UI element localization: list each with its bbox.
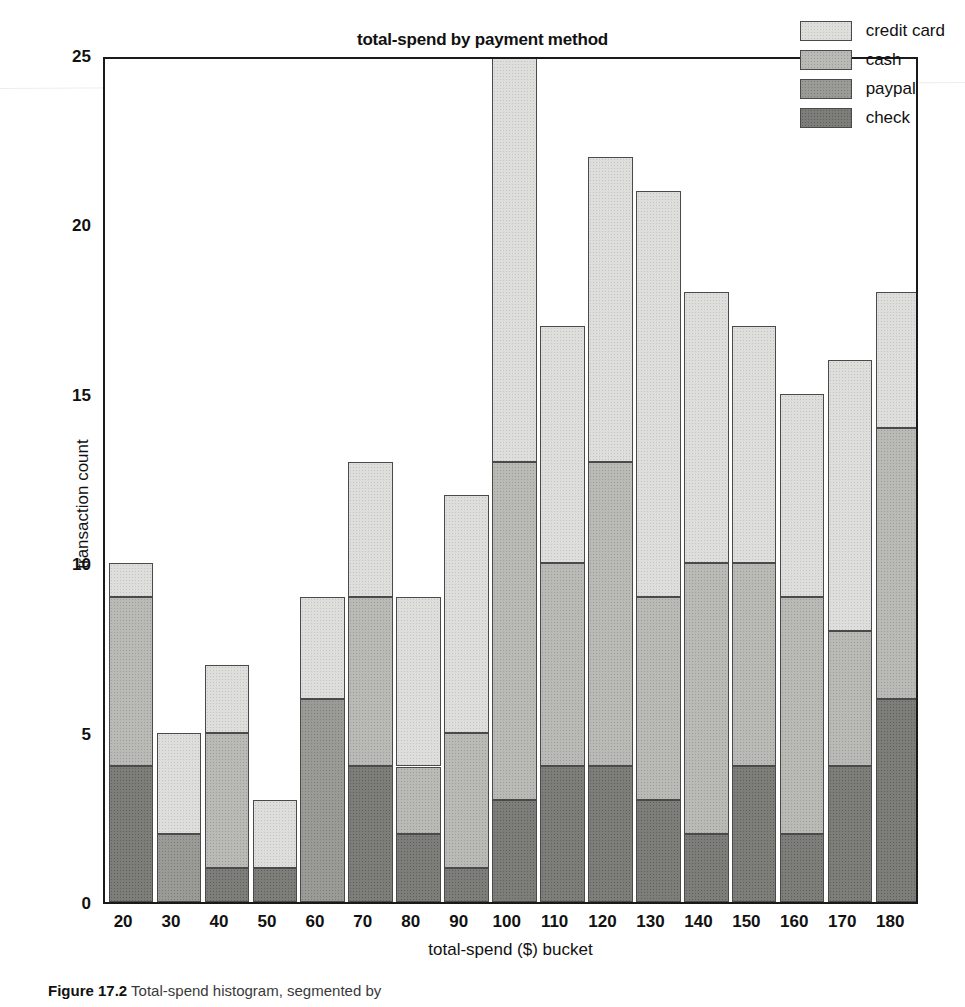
bar-stack[interactable] <box>109 563 154 902</box>
bar-segment-credit-card[interactable] <box>444 495 489 732</box>
legend-item[interactable]: cash <box>800 45 945 74</box>
legend-label: credit card <box>866 21 945 41</box>
bar-segment-cash[interactable] <box>492 462 537 801</box>
bar-segment-cash[interactable] <box>205 733 250 869</box>
bar-segment-check[interactable] <box>253 868 298 902</box>
figure-container: total-spend by payment method transactio… <box>0 0 965 1007</box>
bar-stack[interactable] <box>732 326 777 902</box>
bar-stack[interactable] <box>444 495 489 902</box>
bar-segment-cash[interactable] <box>684 563 729 834</box>
y-tick-label: 15 <box>31 386 91 406</box>
bar-segment-check[interactable] <box>348 766 393 902</box>
bar-segment-cash[interactable] <box>396 767 441 835</box>
bar-segment-check[interactable] <box>205 868 250 902</box>
bar-segment-cash[interactable] <box>732 563 777 766</box>
bar-segment-check[interactable] <box>780 834 825 902</box>
bar-segment-cash[interactable] <box>444 733 489 869</box>
bar-segment-paypal[interactable] <box>300 699 345 902</box>
bar-segment-credit-card[interactable] <box>636 191 681 598</box>
bar-segment-credit-card[interactable] <box>876 292 918 428</box>
bar-segment-cash[interactable] <box>636 597 681 800</box>
bar-stack[interactable] <box>205 665 250 902</box>
y-tick-label: 0 <box>31 894 91 914</box>
bar-stack[interactable] <box>876 292 918 902</box>
legend-swatch-credit-card <box>800 21 852 41</box>
bar-segment-credit-card[interactable] <box>492 57 537 462</box>
bar-segment-check[interactable] <box>828 766 873 902</box>
y-tick-label: 25 <box>31 47 91 67</box>
bar-segment-credit-card[interactable] <box>348 462 393 598</box>
bar-segment-credit-card[interactable] <box>780 394 825 597</box>
bar-segment-cash[interactable] <box>348 597 393 766</box>
bar-segment-credit-card[interactable] <box>540 326 585 563</box>
x-tick-label: 180 <box>860 912 920 932</box>
bar-segment-credit-card[interactable] <box>253 800 298 868</box>
legend-item[interactable]: credit card <box>800 16 945 45</box>
legend-swatch-cash <box>800 50 852 70</box>
bar-segment-credit-card[interactable] <box>588 157 633 462</box>
bar-segment-credit-card[interactable] <box>828 360 873 631</box>
bar-segment-check[interactable] <box>876 699 918 902</box>
legend-label: paypal <box>866 79 916 99</box>
bar-segment-credit-card[interactable] <box>205 665 250 733</box>
bar-segment-credit-card[interactable] <box>684 292 729 563</box>
y-axis-label: transaction count <box>73 439 93 568</box>
legend-label: cash <box>866 50 902 70</box>
legend-swatch-check <box>800 108 852 128</box>
bar-segment-check[interactable] <box>540 766 585 902</box>
bar-segment-check[interactable] <box>396 834 441 902</box>
bar-stack[interactable] <box>157 733 202 902</box>
bar-stack[interactable] <box>636 191 681 902</box>
bar-stack[interactable] <box>828 360 873 902</box>
caption-text: Total-spend histogram, segmented by <box>131 982 381 999</box>
bar-segment-paypal[interactable] <box>157 834 202 902</box>
bar-segment-cash[interactable] <box>540 563 585 766</box>
legend-label: check <box>866 108 910 128</box>
bar-segment-cash[interactable] <box>588 462 633 767</box>
legend-item[interactable]: paypal <box>800 74 945 103</box>
bar-segment-check[interactable] <box>492 800 537 902</box>
bar-stack[interactable] <box>300 597 345 902</box>
bar-segment-check[interactable] <box>684 834 729 902</box>
x-axis-label: total-spend ($) bucket <box>103 940 918 960</box>
caption-figure-number: Figure 17.2 <box>48 982 127 999</box>
bar-stack[interactable] <box>540 326 585 902</box>
bar-segment-check[interactable] <box>732 766 777 902</box>
bar-segment-credit-card[interactable] <box>396 597 441 766</box>
bar-segment-check[interactable] <box>588 766 633 902</box>
bar-segment-cash[interactable] <box>828 631 873 767</box>
bar-stack[interactable] <box>396 597 441 902</box>
bar-stack[interactable] <box>348 462 393 902</box>
bar-segment-credit-card[interactable] <box>109 563 154 597</box>
bar-segment-cash[interactable] <box>109 597 154 766</box>
legend: credit cardcashpaypalcheck <box>796 12 951 136</box>
plot-area <box>103 57 918 904</box>
bar-segment-check[interactable] <box>109 766 154 902</box>
bar-segment-credit-card[interactable] <box>157 733 202 835</box>
bar-segment-check[interactable] <box>444 868 489 902</box>
bar-stack[interactable] <box>684 292 729 902</box>
bar-segment-check[interactable] <box>636 800 681 902</box>
y-tick-label: 20 <box>31 216 91 236</box>
bar-stack[interactable] <box>253 800 298 902</box>
bar-segment-cash[interactable] <box>780 597 825 834</box>
bar-stack[interactable] <box>492 57 537 902</box>
y-tick-label: 5 <box>31 725 91 745</box>
bar-segment-cash[interactable] <box>876 428 918 699</box>
bars-layer <box>105 59 916 902</box>
bar-segment-credit-card[interactable] <box>732 326 777 563</box>
figure-caption: Figure 17.2 Total-spend histogram, segme… <box>48 982 381 999</box>
bar-stack[interactable] <box>780 394 825 902</box>
legend-swatch-paypal <box>800 79 852 99</box>
bar-stack[interactable] <box>588 157 633 902</box>
y-tick-label: 10 <box>31 555 91 575</box>
bar-segment-credit-card[interactable] <box>300 597 345 699</box>
legend-item[interactable]: check <box>800 103 945 132</box>
